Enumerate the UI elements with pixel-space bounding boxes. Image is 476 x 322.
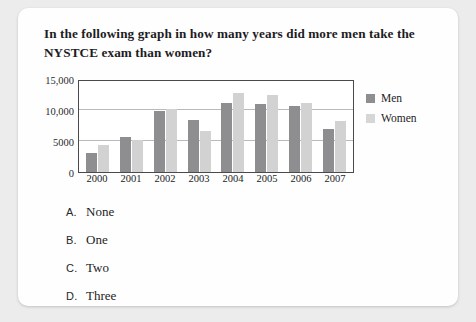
answer-option-b[interactable]: B.One xyxy=(66,232,116,248)
bar-group xyxy=(154,81,177,172)
chart-legend: Men Women xyxy=(366,92,416,132)
bar-women-2005 xyxy=(267,95,278,173)
y-axis-tick-label: 15,000 xyxy=(32,75,74,86)
option-text: One xyxy=(86,232,108,248)
bar-group xyxy=(221,81,244,172)
bar-groups xyxy=(79,81,353,172)
answer-option-d[interactable]: D.Three xyxy=(66,288,116,304)
y-axis-labels: 0500010,00015,000 xyxy=(32,72,74,172)
bar-group xyxy=(289,81,312,172)
bar-women-2006 xyxy=(301,103,312,172)
option-letter: C. xyxy=(66,262,86,274)
bar-group xyxy=(120,81,143,172)
x-axis-tick-label: 2006 xyxy=(289,173,314,184)
bar-men-2005 xyxy=(255,104,266,172)
answer-option-a[interactable]: A.None xyxy=(66,204,116,220)
bar-group xyxy=(188,81,211,172)
question-text: In the following graph in how many years… xyxy=(44,24,434,62)
bar-men-2004 xyxy=(221,103,232,172)
option-letter: B. xyxy=(66,234,86,246)
bar-men-2003 xyxy=(188,120,199,172)
bar-women-2001 xyxy=(132,140,143,172)
x-axis-tick-label: 2005 xyxy=(255,173,280,184)
plot-area xyxy=(78,80,354,173)
legend-label-men: Men xyxy=(381,92,402,104)
legend-item-women: Women xyxy=(366,112,416,124)
option-text: Three xyxy=(86,288,116,304)
bar-men-2002 xyxy=(154,111,165,172)
x-axis-tick-label: 2001 xyxy=(119,173,144,184)
bar-group xyxy=(86,81,109,172)
bar-women-2000 xyxy=(98,145,109,172)
legend-item-men: Men xyxy=(366,92,416,104)
bar-group xyxy=(323,81,346,172)
bar-men-2006 xyxy=(289,106,300,172)
x-axis-labels: 20002001200220032004200520062007 xyxy=(78,173,354,184)
legend-label-women: Women xyxy=(381,112,416,124)
option-text: Two xyxy=(86,260,109,276)
y-axis-tick-label: 10,000 xyxy=(32,106,74,117)
bar-women-2004 xyxy=(233,93,244,172)
x-axis-tick-label: 2002 xyxy=(153,173,178,184)
legend-swatch-women-icon xyxy=(366,114,375,123)
bar-men-2007 xyxy=(323,129,334,172)
x-axis-tick-label: 2004 xyxy=(221,173,246,184)
option-text: None xyxy=(86,204,114,220)
y-axis-tick-label: 5000 xyxy=(32,137,74,148)
x-axis-tick-label: 2007 xyxy=(323,173,348,184)
option-letter: A. xyxy=(66,206,86,218)
question-card: In the following graph in how many years… xyxy=(18,8,458,306)
answer-options: A.NoneB.OneC.TwoD.Three xyxy=(66,204,116,306)
x-axis-tick-label: 2003 xyxy=(187,173,212,184)
bar-women-2007 xyxy=(335,121,346,172)
y-axis-tick-label: 0 xyxy=(32,168,74,179)
answer-option-c[interactable]: C.Two xyxy=(66,260,116,276)
bar-men-2000 xyxy=(86,153,97,172)
bar-women-2003 xyxy=(200,131,211,172)
x-axis-tick-label: 2000 xyxy=(85,173,110,184)
bar-women-2002 xyxy=(166,109,177,172)
bar-men-2001 xyxy=(120,137,131,172)
bar-group xyxy=(255,81,278,172)
option-letter: D. xyxy=(66,290,86,302)
legend-swatch-men-icon xyxy=(366,94,375,103)
bar-chart: 0500010,00015,000 2000200120022003200420… xyxy=(32,72,442,192)
